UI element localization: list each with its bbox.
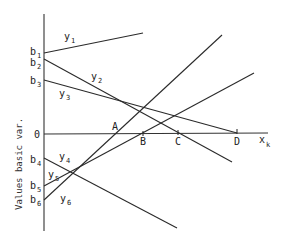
svg-text:2: 2 — [98, 77, 102, 85]
svg-text:6: 6 — [67, 199, 71, 207]
svg-text:3: 3 — [37, 81, 41, 89]
svg-text:6: 6 — [37, 200, 41, 208]
point-C: C — [175, 136, 181, 147]
point-D: D — [234, 136, 240, 147]
intercept-b4: b 4 — [30, 154, 41, 168]
svg-text:5: 5 — [37, 186, 41, 194]
svg-text:b: b — [30, 180, 36, 191]
svg-text:y: y — [60, 193, 66, 204]
y-axis-label: Values basic var. — [14, 118, 24, 210]
svg-text:y: y — [59, 151, 65, 162]
label-y4: y 4 — [59, 151, 70, 165]
point-A: A — [112, 121, 118, 132]
svg-text:y: y — [48, 169, 54, 180]
zero-label: 0 — [34, 129, 40, 140]
svg-text:2: 2 — [37, 63, 41, 71]
svg-text:b: b — [30, 46, 36, 57]
svg-text:1: 1 — [71, 37, 75, 45]
svg-text:y: y — [64, 31, 70, 42]
svg-text:b: b — [30, 154, 36, 165]
x-axis — [44, 133, 268, 134]
svg-text:b: b — [30, 57, 36, 68]
svg-text:y: y — [59, 88, 65, 99]
label-y1: y 1 — [64, 31, 75, 45]
svg-text:b: b — [30, 194, 36, 205]
intercept-b3: b 3 — [30, 75, 41, 89]
label-y2: y 2 — [91, 71, 102, 85]
x-axis-label: x k — [259, 134, 271, 149]
line-y6 — [44, 35, 222, 200]
svg-text:1: 1 — [37, 52, 41, 60]
svg-text:y: y — [91, 71, 97, 82]
line-y1 — [44, 33, 143, 53]
svg-text:x: x — [259, 134, 265, 145]
svg-text:3: 3 — [66, 94, 70, 102]
svg-text:4: 4 — [37, 160, 41, 168]
svg-text:k: k — [266, 141, 271, 149]
svg-text:b: b — [30, 75, 36, 86]
svg-text:4: 4 — [66, 157, 70, 165]
label-y6: y 6 — [60, 193, 71, 207]
svg-text:5: 5 — [55, 175, 59, 183]
label-y3: y 3 — [59, 88, 70, 102]
point-B: B — [140, 136, 146, 147]
parametric-lines-diagram: Values basic var. 0 b 1 b 2 b 3 b 4 b 5 … — [0, 0, 283, 245]
line-y2 — [44, 59, 232, 162]
intercept-b5: b 5 — [30, 180, 41, 194]
line-y3 — [44, 80, 237, 133]
intercept-b6: b 6 — [30, 194, 41, 208]
